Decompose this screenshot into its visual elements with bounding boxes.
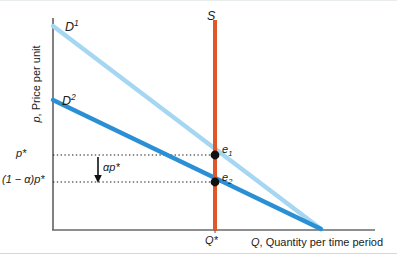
curve-label-supply: S — [207, 10, 215, 23]
x-axis-label-text: , Quantity per time period — [260, 236, 384, 248]
demand-curve-d2 — [53, 100, 321, 229]
plot-canvas — [0, 0, 397, 262]
curve-label-demand2-superscript: 2 — [71, 92, 76, 102]
x-tick-label-q-star: Q* — [205, 235, 218, 246]
point-label-e1-subscript: 1 — [228, 149, 232, 158]
curve-label-demand2: D2 — [62, 93, 76, 108]
curve-label-demand2-letter: D — [62, 94, 71, 108]
curve-label-demand1-letter: D — [65, 20, 74, 34]
y-tick-label-p-star: p* — [16, 148, 26, 159]
annotation-label-alpha-p-star: αp* — [103, 162, 120, 173]
point-label-e1: e1 — [222, 144, 232, 158]
equilibrium-point-e2 — [211, 178, 220, 187]
curve-label-demand1-superscript: 1 — [74, 18, 79, 28]
x-axis-label-variable: Q — [251, 236, 260, 248]
y-axis-label-variable: p — [30, 116, 42, 122]
curve-label-demand1: D1 — [65, 19, 79, 34]
point-label-e2-subscript: 2 — [228, 177, 232, 186]
x-axis-label: Q, Quantity per time period — [251, 236, 383, 248]
point-label-e2: e2 — [222, 172, 232, 186]
y-tick-label-one-minus-alpha-p-star: (1 − α)p* — [2, 174, 45, 185]
supply-demand-figure: p, Price per unit Q, Quantity per time p… — [0, 0, 397, 262]
equilibrium-point-e1 — [211, 151, 220, 160]
y-axis-label: p, Price per unit — [30, 14, 42, 154]
demand-curve-d1 — [53, 26, 321, 229]
y-axis-label-text: , Price per unit — [30, 45, 42, 116]
